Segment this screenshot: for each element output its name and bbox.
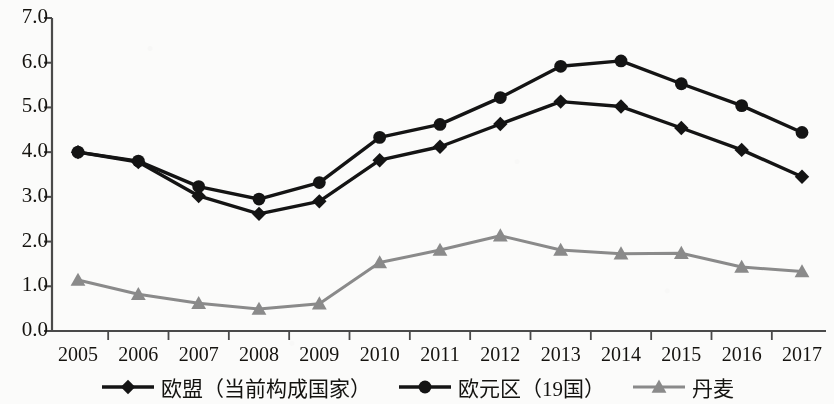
diamond-marker-icon xyxy=(493,117,507,131)
triangle-marker-icon xyxy=(71,273,86,286)
x-axis-tick-label: 2005 xyxy=(58,343,98,366)
x-axis-tick-label: 2015 xyxy=(661,343,701,366)
circle-marker-icon xyxy=(615,55,628,68)
circle-marker-icon xyxy=(419,381,432,394)
circle-marker-icon xyxy=(735,99,748,112)
circle-marker-icon xyxy=(494,91,507,104)
diamond-marker-icon xyxy=(614,99,628,113)
legend-item-label: 丹麦 xyxy=(692,372,734,402)
y-axis-tick-labels: 7.06.05.04.03.02.01.00.0 xyxy=(0,0,48,404)
circle-marker-icon xyxy=(675,77,688,90)
x-axis-tick-label: 2017 xyxy=(782,343,822,366)
circle-marker-icon xyxy=(192,180,205,193)
circle-marker-icon xyxy=(397,376,453,398)
y-axis-tick-label: 2.0 xyxy=(4,228,48,253)
x-axis-tick-label: 2013 xyxy=(541,343,581,366)
x-axis-tick-label: 2012 xyxy=(480,343,520,366)
legend-item[interactable]: 欧盟（当前构成国家） xyxy=(100,372,371,402)
x-axis-tick-label: 2009 xyxy=(299,343,339,366)
legend-item[interactable]: 丹麦 xyxy=(631,372,734,402)
x-axis-tick-label: 2007 xyxy=(179,343,219,366)
circle-marker-icon xyxy=(554,60,567,73)
y-axis-tick-label: 0.0 xyxy=(4,317,48,342)
diamond-marker-icon xyxy=(734,143,748,157)
x-axis-tick-label: 2006 xyxy=(118,343,158,366)
x-axis-tick-label: 2011 xyxy=(420,343,459,366)
circle-marker-icon xyxy=(253,193,266,206)
diamond-marker-icon xyxy=(553,94,567,108)
x-axis-tick-label: 2014 xyxy=(601,343,641,366)
circle-marker-icon xyxy=(313,176,326,189)
y-axis-tick-label: 6.0 xyxy=(4,49,48,74)
diamond-marker-icon xyxy=(433,140,447,154)
line-chart: 7.06.05.04.03.02.01.00.0 200520062007200… xyxy=(0,0,834,404)
legend-item[interactable]: 欧元区（19国） xyxy=(397,372,605,402)
circle-marker-icon xyxy=(434,118,447,131)
circle-marker-icon xyxy=(72,146,85,159)
diamond-marker-icon xyxy=(252,207,266,221)
triangle-marker-icon xyxy=(631,376,687,398)
y-axis-tick-label: 4.0 xyxy=(4,138,48,163)
y-axis-tick-label: 3.0 xyxy=(4,183,48,208)
diamond-marker-icon xyxy=(100,376,156,398)
y-axis-tick-label: 1.0 xyxy=(4,272,48,297)
diamond-marker-icon xyxy=(121,380,135,394)
series-3 xyxy=(71,228,810,315)
x-axis-tick-label: 2008 xyxy=(239,343,279,366)
circle-marker-icon xyxy=(796,126,809,139)
x-axis-tick-label: 2010 xyxy=(360,343,400,366)
x-axis-tick-label: 2016 xyxy=(722,343,762,366)
y-axis-tick-label: 7.0 xyxy=(4,4,48,29)
legend-item-label: 欧元区（19国） xyxy=(458,372,605,402)
series-1 xyxy=(71,94,809,221)
diamond-marker-icon xyxy=(795,170,809,184)
legend-item-label: 欧盟（当前构成国家） xyxy=(161,372,371,402)
diamond-marker-icon xyxy=(674,121,688,135)
series-2 xyxy=(72,55,809,206)
y-axis-tick-label: 5.0 xyxy=(4,93,48,118)
chart-legend: 欧盟（当前构成国家）欧元区（19国）丹麦 xyxy=(0,370,834,404)
triangle-marker-icon xyxy=(493,228,508,241)
circle-marker-icon xyxy=(373,131,386,144)
circle-marker-icon xyxy=(132,155,145,168)
